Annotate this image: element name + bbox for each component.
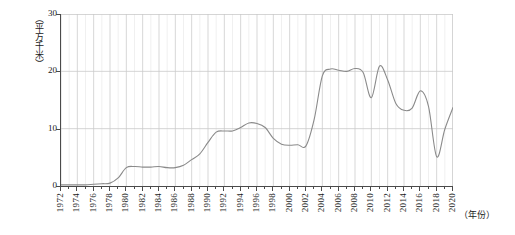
x-tick-mark <box>232 186 233 189</box>
y-tick-mark <box>56 71 60 72</box>
x-tick-mark <box>387 186 388 191</box>
x-tick-label: 1994 <box>235 193 245 212</box>
y-tick-label: 10 <box>48 123 57 133</box>
x-tick-mark <box>215 186 216 189</box>
x-tick-mark <box>346 186 347 189</box>
x-tick-mark <box>207 186 208 191</box>
x-tick-label: 2010 <box>365 193 375 212</box>
x-tick-mark <box>256 186 257 191</box>
x-tick-label: 2002 <box>300 193 310 212</box>
x-tick-mark <box>370 186 371 191</box>
x-tick-mark <box>174 186 175 191</box>
x-tick-mark <box>166 186 167 189</box>
x-tick-mark <box>117 186 118 189</box>
x-axis-title: （年份） <box>459 208 495 221</box>
x-tick-mark <box>150 186 151 189</box>
x-tick-mark <box>338 186 339 191</box>
x-tick-mark <box>142 186 143 191</box>
x-tick-mark <box>354 186 355 191</box>
y-axis-title: （平方千米） <box>26 14 44 68</box>
x-tick-label: 1988 <box>186 193 196 212</box>
x-tick-mark <box>85 186 86 189</box>
x-tick-label: 2008 <box>349 193 359 212</box>
x-tick-label: 1986 <box>169 193 179 212</box>
y-tick-label: 0 <box>53 180 58 190</box>
x-tick-mark <box>395 186 396 189</box>
x-tick-mark <box>60 186 61 191</box>
x-tick-label: 1982 <box>137 193 147 212</box>
x-tick-mark <box>272 186 273 191</box>
x-tick-label: 2004 <box>316 193 326 212</box>
x-tick-mark <box>191 186 192 191</box>
x-tick-label: 1990 <box>202 193 212 212</box>
x-tick-mark <box>158 186 159 191</box>
x-tick-label: 2006 <box>333 193 343 212</box>
x-tick-mark <box>313 186 314 189</box>
x-tick-mark <box>183 186 184 189</box>
x-tick-label: 2018 <box>431 193 441 212</box>
x-tick-mark <box>330 186 331 189</box>
y-tick-mark <box>56 14 60 15</box>
x-tick-mark <box>240 186 241 191</box>
x-tick-mark <box>248 186 249 189</box>
x-tick-label: 1992 <box>218 193 228 212</box>
x-tick-mark <box>403 186 404 191</box>
x-tick-mark <box>199 186 200 189</box>
x-tick-mark <box>444 186 445 189</box>
x-tick-label: 2012 <box>382 193 392 212</box>
x-tick-mark <box>379 186 380 189</box>
grid-and-series <box>61 14 453 186</box>
x-tick-mark <box>305 186 306 191</box>
x-tick-label: 1980 <box>120 193 130 212</box>
x-tick-mark <box>436 186 437 191</box>
x-tick-mark <box>297 186 298 189</box>
x-tick-mark <box>452 186 453 191</box>
x-tick-label: 2016 <box>414 193 424 212</box>
plot-area <box>60 14 453 187</box>
x-tick-mark <box>125 186 126 191</box>
x-tick-mark <box>362 186 363 189</box>
line-chart: （平方千米） 0102030 1972197419761978198019821… <box>0 0 515 235</box>
x-tick-mark <box>109 186 110 191</box>
x-tick-mark <box>428 186 429 189</box>
x-tick-mark <box>134 186 135 189</box>
x-tick-mark <box>321 186 322 191</box>
x-tick-label: 1996 <box>251 193 261 212</box>
x-tick-label: 1998 <box>267 193 277 212</box>
x-tick-label: 1976 <box>88 193 98 212</box>
x-tick-mark <box>76 186 77 191</box>
x-tick-mark <box>289 186 290 191</box>
x-tick-mark <box>264 186 265 189</box>
x-tick-mark <box>281 186 282 189</box>
y-tick-mark <box>56 129 60 130</box>
x-tick-label: 1972 <box>55 193 65 212</box>
x-tick-mark <box>68 186 69 189</box>
x-tick-label: 1984 <box>153 193 163 212</box>
x-tick-mark <box>223 186 224 191</box>
x-tick-mark <box>93 186 94 191</box>
x-tick-mark <box>101 186 102 189</box>
x-tick-label: 2020 <box>447 193 457 212</box>
x-tick-label: 1978 <box>104 193 114 212</box>
x-tick-label: 1974 <box>71 193 81 212</box>
x-tick-label: 2000 <box>284 193 294 212</box>
x-tick-label: 2014 <box>398 193 408 212</box>
x-tick-mark <box>411 186 412 189</box>
x-tick-mark <box>419 186 420 191</box>
y-tick-label: 30 <box>48 8 57 18</box>
